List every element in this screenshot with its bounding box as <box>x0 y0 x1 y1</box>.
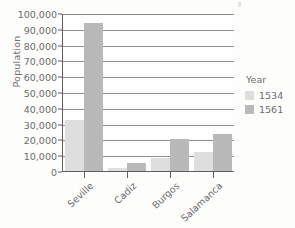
legend-swatch <box>245 105 254 114</box>
y-tick-label: 90,000 <box>24 24 57 35</box>
y-tick-label: 80,000 <box>24 40 57 51</box>
legend-item: 1561 <box>245 104 295 115</box>
y-axis-title: Population <box>11 12 22 112</box>
x-tick-mark <box>84 172 85 178</box>
legend-items: 15341561 <box>245 90 295 115</box>
x-tick-mark <box>170 172 171 178</box>
y-tick-label: 20,000 <box>24 135 57 146</box>
legend-item: 1534 <box>245 90 295 101</box>
bar <box>170 139 189 172</box>
y-tick-label: 100,000 <box>18 9 57 20</box>
y-axis-line <box>62 14 63 172</box>
y-tick-label: 40,000 <box>24 103 57 114</box>
bar-group <box>151 14 189 172</box>
x-tick-mark <box>127 172 128 178</box>
x-tick-label: Burgos <box>149 180 181 211</box>
x-tick-label: Cadiz <box>111 180 138 206</box>
population-bar-chart: Population 010,00020,00030,00040,00050,0… <box>0 0 295 228</box>
bar <box>194 152 213 172</box>
legend-swatch <box>245 91 254 100</box>
y-tick-label: 30,000 <box>24 119 57 130</box>
bar <box>65 120 84 172</box>
scan-artifact-speck <box>238 2 241 7</box>
bar-group <box>65 14 103 172</box>
legend: Year 15341561 <box>245 74 295 118</box>
x-tick-mark <box>213 172 214 178</box>
bar <box>84 23 103 172</box>
y-tick-label: 60,000 <box>24 72 57 83</box>
y-tick-label: 50,000 <box>24 88 57 99</box>
bar <box>213 134 232 172</box>
bar <box>151 158 170 172</box>
x-tick-label: Seville <box>65 180 95 209</box>
legend-label: 1534 <box>259 90 283 101</box>
y-tick-label: 0 <box>51 167 57 178</box>
legend-title: Year <box>246 74 295 85</box>
bar-group <box>108 14 146 172</box>
x-axis-line <box>62 171 234 172</box>
y-tick-label: 70,000 <box>24 56 57 67</box>
legend-label: 1561 <box>259 104 283 115</box>
x-tick-label: Salamanca <box>178 180 224 224</box>
y-tick-label: 10,000 <box>24 151 57 162</box>
bar-group <box>194 14 232 172</box>
plot-area: 010,00020,00030,00040,00050,00060,00070,… <box>62 14 234 172</box>
bars <box>62 14 234 172</box>
